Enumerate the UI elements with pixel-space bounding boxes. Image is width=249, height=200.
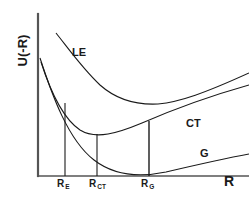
tick-label-re-base: R	[57, 178, 64, 189]
tick-label-rg-base: R	[141, 178, 148, 189]
curve-g	[40, 58, 249, 175]
tick-label-rct: RCT	[89, 179, 105, 189]
potential-energy-diagram: U(-R) R LE CT G RE RCT RG	[0, 0, 249, 200]
tick-label-re: RE	[57, 179, 69, 189]
y-axis-label: U(-R)	[16, 23, 29, 79]
curve-label-ct: CT	[186, 118, 201, 129]
tick-label-re-subscript: E	[65, 183, 69, 190]
curve-label-g: G	[200, 148, 209, 159]
plot-area	[0, 0, 249, 200]
curve-ct	[41, 62, 249, 135]
tick-label-rct-subscript: CT	[97, 183, 106, 190]
tick-label-rct-base: R	[89, 178, 96, 189]
tick-label-rg-subscript: G	[149, 183, 154, 190]
x-axis-label: R	[224, 174, 234, 188]
curve-label-le: LE	[72, 47, 86, 58]
tick-label-rg: RG	[141, 179, 153, 189]
